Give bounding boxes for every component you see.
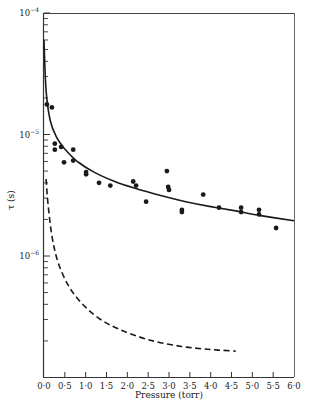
dashed-line [46,179,236,351]
x-tick-label: 0·5 [58,381,72,391]
data-point [239,205,244,210]
data-point [84,172,89,177]
data-point [45,102,50,107]
data-point [144,199,149,204]
chart: 0·00·51·01·52·02·53·03·54·04·55·05·56·0 … [0,0,310,408]
data-point [257,207,262,212]
data-point [131,179,136,184]
data-point [217,205,222,210]
data-point [180,210,185,215]
y-tick-label: 10−6 [19,249,39,261]
x-tick-label: 0·0 [37,381,51,391]
fit-line [44,40,294,221]
data-point [134,183,139,188]
data-point [71,158,76,163]
data-point [52,141,57,146]
x-tick-label: 4·5 [225,381,239,391]
data-point [239,210,244,215]
data-point [108,183,113,188]
data-point [257,212,262,217]
x-axis-title: Pressure (torr) [135,390,203,400]
data-point [201,192,206,197]
y-axis-title: τ (s) [6,190,16,209]
data-point [165,169,170,174]
data-point [50,105,55,110]
y-tick-label: 10−4 [19,6,39,18]
x-tick-label: 6·0 [287,381,301,391]
x-tick-label: 2·0 [121,381,135,391]
data-point [59,145,64,150]
x-tick-label: 5·5 [266,381,280,391]
data-point [97,180,102,185]
data-point [52,147,57,152]
calculated-dashed-curve [46,179,236,351]
y-tick-label: 10−5 [19,128,39,140]
x-tick-label: 1·5 [100,381,114,391]
data-point [62,160,67,165]
data-point [71,147,76,152]
x-tick-label: 5·0 [246,381,260,391]
data-point [167,188,172,193]
plot-frame [43,13,295,378]
data-points [45,102,279,230]
y-ticks: 10−410−510−6 [19,6,50,261]
fit-curve [44,40,294,221]
data-point [274,226,279,231]
x-tick-label: 1·0 [79,381,93,391]
x-tick-label: 4·0 [204,381,218,391]
x-ticks: 0·00·51·01·52·02·53·03·54·04·55·05·56·0 [37,372,301,391]
